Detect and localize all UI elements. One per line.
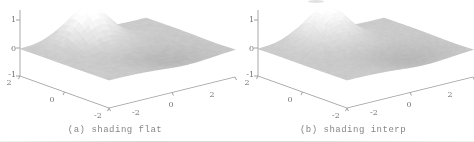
scan-page-edge-line — [0, 141, 474, 142]
panel-a-caption: (a) shading flat — [68, 125, 162, 135]
figure: (a) shading flat (b) shading interp 10-1… — [0, 0, 474, 142]
surface-plot-canvas — [0, 0, 474, 142]
scan-smudge-artifact — [308, 0, 324, 3]
panel-b-caption: (b) shading interp — [300, 125, 406, 135]
